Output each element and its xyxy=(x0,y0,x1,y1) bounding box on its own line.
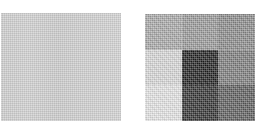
grid-heatmap-panel xyxy=(145,14,255,121)
heatmap-cell-r0c0 xyxy=(145,14,182,50)
heatmap-cell-fill xyxy=(145,85,182,121)
uniform-heatmap-fill xyxy=(1,13,121,121)
heatmap-cell-fill xyxy=(218,14,255,50)
heatmap-cell-fill xyxy=(218,85,255,121)
heatmap-cell-r1c1 xyxy=(182,50,219,86)
heatmap-cell-r0c2 xyxy=(218,14,255,50)
uniform-heatmap-panel xyxy=(1,13,121,121)
heatmap-cell-r0c1 xyxy=(182,14,219,50)
heatmap-cell-fill xyxy=(145,14,182,50)
heatmap-cell-r2c2 xyxy=(218,85,255,121)
heatmap-cell-r1c0 xyxy=(145,50,182,86)
heatmap-cell-r1c2 xyxy=(218,50,255,86)
heatmap-cell-fill xyxy=(182,85,219,121)
heatmap-cell-r2c1 xyxy=(182,85,219,121)
grid-heatmap-cells xyxy=(145,14,255,121)
heatmap-cell-fill xyxy=(182,50,219,86)
heatmap-cell-fill xyxy=(145,50,182,86)
heatmap-cell-r2c0 xyxy=(145,85,182,121)
figure-canvas xyxy=(0,0,264,133)
heatmap-cell-fill xyxy=(182,14,219,50)
heatmap-cell-fill xyxy=(218,50,255,86)
